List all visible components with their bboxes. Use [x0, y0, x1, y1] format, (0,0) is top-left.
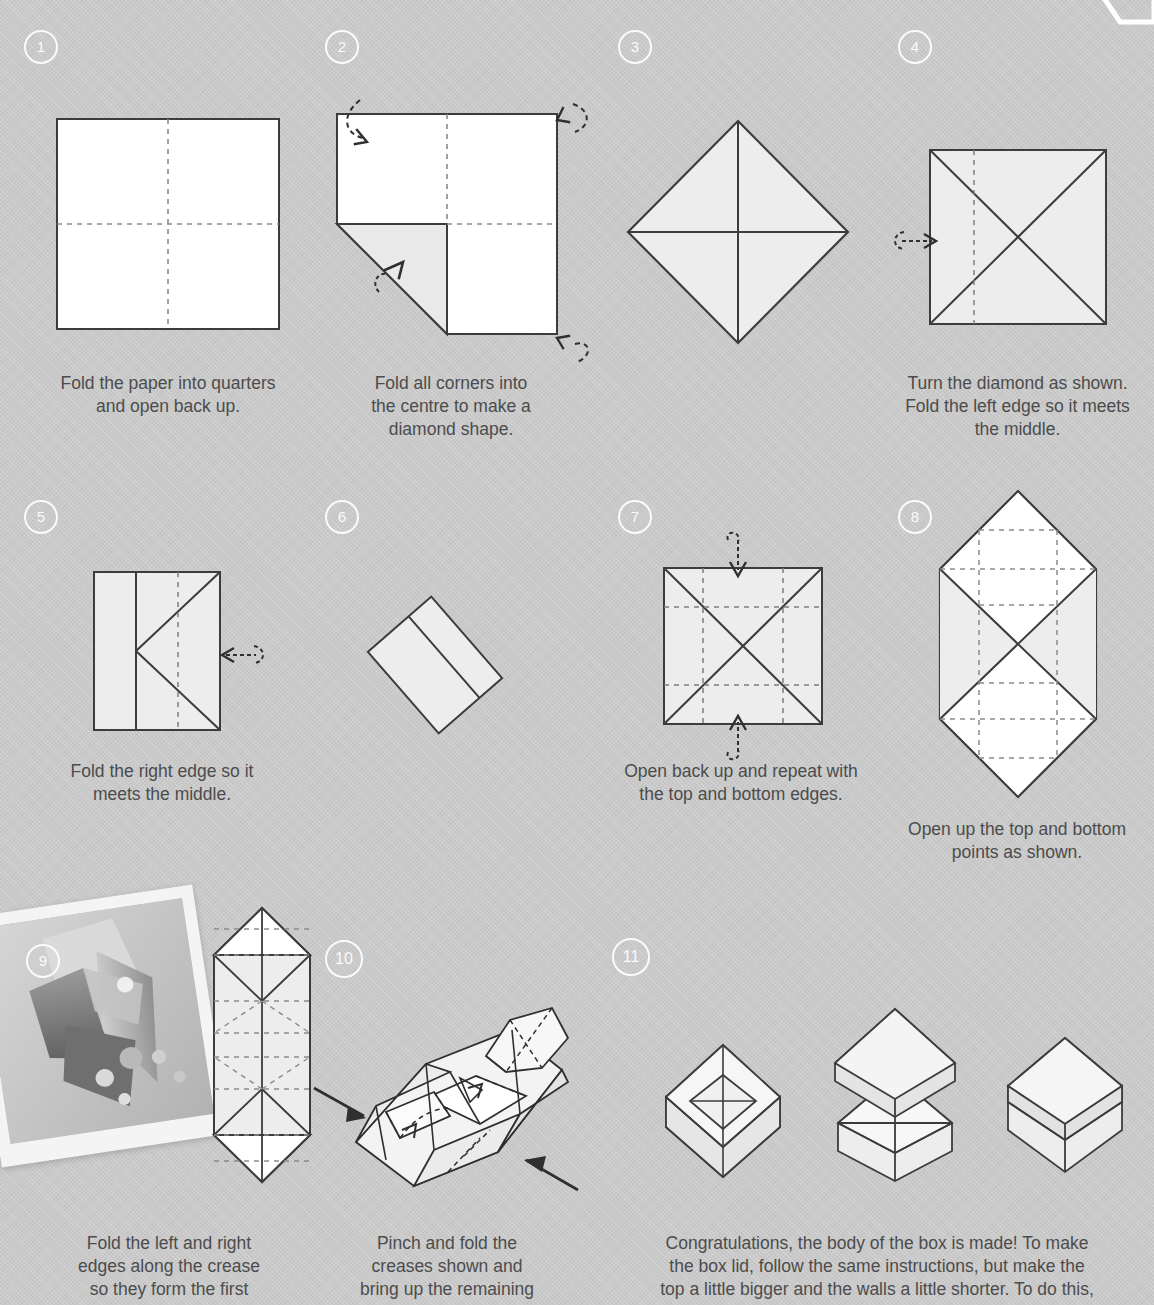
step-number-6: 6	[325, 500, 359, 534]
figure-step-11-open-box	[658, 1035, 788, 1185]
caption-step-1: Fold the paper into quarters and open ba…	[18, 372, 318, 418]
step-number-11: 11	[612, 938, 650, 976]
corner-decoration	[1058, 0, 1154, 34]
fold-arrow-down-step-7	[714, 534, 762, 586]
fold-arrow-right-step-4	[890, 224, 946, 256]
caption-step-4: Turn the diamond as shown. Fold the left…	[880, 372, 1154, 441]
photo-folded-paper	[0, 884, 229, 1167]
figure-step-11-box-with-lid-above	[820, 1005, 970, 1185]
figure-step-9	[210, 905, 314, 1185]
caption-step-5: Fold the right edge so it meets the midd…	[26, 760, 298, 806]
step-number-4: 4	[898, 30, 932, 64]
figure-step-1	[56, 118, 280, 330]
step-number-8: 8	[898, 500, 932, 534]
caption-step-8: Open up the top and bottom points as sho…	[880, 818, 1154, 864]
figure-step-3	[625, 118, 851, 346]
step-number-9: 9	[26, 944, 60, 978]
step-number-7: 7	[618, 500, 652, 534]
photo-image	[0, 898, 214, 1144]
figure-step-6	[335, 565, 535, 765]
step-number-1: 1	[24, 30, 58, 64]
fold-arrow-up-step-7	[714, 704, 762, 758]
caption-step-2: Fold all corners into the centre to make…	[316, 372, 586, 441]
caption-step-11: Congratulations, the body of the box is …	[600, 1232, 1154, 1301]
instruction-sheet: 1 Fold the paper into quarters and open …	[0, 0, 1154, 1305]
step-number-5: 5	[24, 500, 58, 534]
fold-arrow-left-step-5	[212, 638, 268, 670]
caption-step-9: Fold the left and right edges along the …	[40, 1232, 298, 1301]
figure-step-8	[935, 488, 1101, 800]
figure-step-11-closed-box	[1000, 1030, 1130, 1180]
figure-step-2	[335, 112, 575, 342]
figure-step-10	[330, 960, 590, 1200]
caption-step-10: Pinch and fold the creases shown and bri…	[318, 1232, 576, 1301]
corner-decoration-shape	[1058, 0, 1154, 34]
step-number-2: 2	[325, 30, 359, 64]
step-number-3: 3	[618, 30, 652, 64]
figure-step-7	[662, 566, 824, 726]
figure-step-5	[92, 570, 222, 732]
figure-step-4	[928, 148, 1108, 326]
caption-step-7: Open back up and repeat with the top and…	[594, 760, 888, 806]
